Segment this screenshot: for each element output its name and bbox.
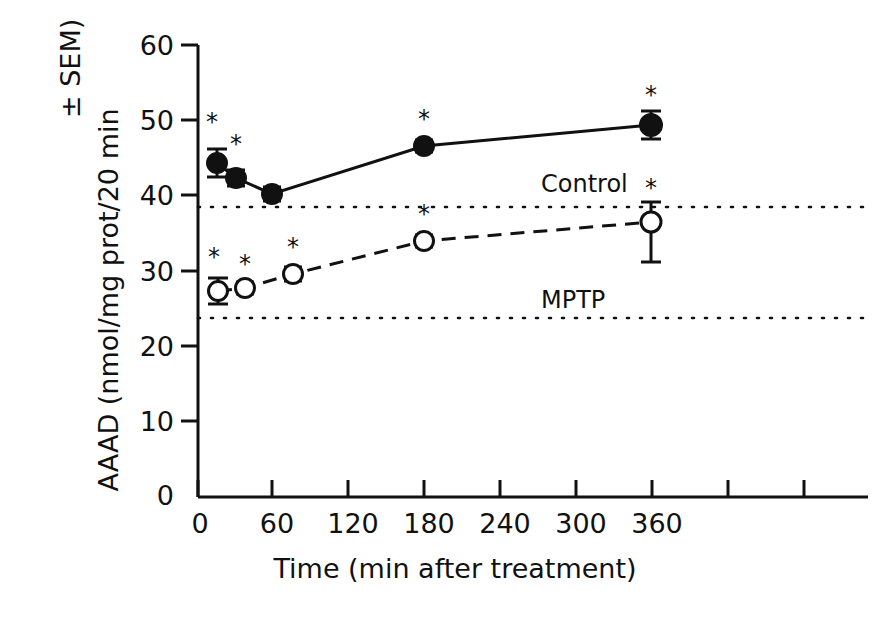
x-ticks-group	[198, 480, 804, 497]
y-axis-title-sem: ± SEM)	[55, 19, 86, 118]
x-tick-label-240: 240	[479, 508, 531, 539]
series-annotations-group: Control MPTP	[541, 170, 628, 314]
significance-star-control-30: *	[230, 130, 242, 158]
significance-star-control-180: *	[418, 105, 430, 133]
series-mptp-line	[218, 222, 651, 291]
significance-star-control-358: *	[645, 81, 657, 109]
significance-star-control-15: *	[206, 108, 218, 136]
annotation-mptp-label: MPTP	[541, 286, 605, 314]
data-point-control-180	[414, 136, 434, 156]
data-point-control-30	[226, 168, 246, 188]
data-point-mptp-180	[415, 232, 434, 251]
data-point-mptp-15	[209, 282, 228, 301]
data-point-mptp-30	[236, 279, 255, 298]
x-tick-label-120: 120	[327, 508, 379, 539]
significance-star-mptp-180: *	[418, 200, 430, 228]
data-point-control-58	[262, 184, 282, 204]
x-tick-label-0: 0	[191, 508, 208, 539]
data-point-control-15	[207, 153, 227, 173]
figure-panel: 60 50 40 30 20 10 0 0 60 120 180 240	[0, 0, 880, 617]
significance-star-mptp-58: *	[287, 233, 299, 261]
significance-star-mptp-15: *	[208, 243, 220, 271]
y-ticks-group	[181, 45, 198, 421]
x-tick-label-180: 180	[403, 508, 455, 539]
y-tick-label-30: 30	[140, 256, 174, 287]
y-tick-label-20: 20	[140, 331, 174, 362]
y-tick-label-10: 10	[140, 406, 174, 437]
x-tick-labels-group: 0 60 120 180 240 300 360	[191, 508, 682, 539]
x-axis-title: Time (min after treatment)	[272, 553, 636, 584]
reference-lines-group	[198, 207, 866, 318]
significance-star-mptp-358: *	[645, 174, 657, 202]
y-tick-labels-group: 60 50 40 30 20 10 0	[140, 30, 174, 511]
significance-star-mptp-30: *	[239, 250, 251, 278]
y-axis-title-main: AAAD (nmol/mg prot/20 min	[93, 108, 124, 491]
x-tick-label-60: 60	[260, 508, 294, 539]
x-tick-label-360: 360	[631, 508, 683, 539]
data-point-mptp-58	[284, 265, 303, 284]
y-tick-label-0: 0	[157, 480, 174, 511]
data-point-mptp-358	[641, 212, 661, 232]
y-tick-label-60: 60	[140, 30, 174, 61]
y-tick-label-50: 50	[140, 105, 174, 136]
y-tick-label-40: 40	[140, 180, 174, 211]
annotation-control-label: Control	[541, 170, 628, 198]
aaad-time-course-chart: 60 50 40 30 20 10 0 0 60 120 180 240	[0, 0, 880, 617]
data-point-control-358	[640, 114, 662, 136]
x-tick-label-300: 300	[555, 508, 607, 539]
